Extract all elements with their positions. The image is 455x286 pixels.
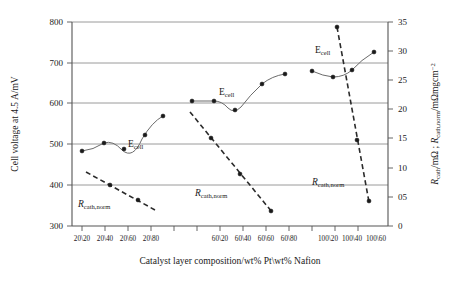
y-axis-left-title: Cell voltage at 4.5 A/mV: [10, 76, 20, 171]
annotation-rcath-middle: Rcath,norm: [194, 188, 228, 199]
xtick-2: 20\60: [120, 235, 137, 243]
ytick-800: 800: [50, 17, 64, 27]
xtick-10: 100\60: [366, 235, 386, 243]
svg-text:Ecell: Ecell: [219, 87, 234, 98]
y2-title-unit2-sup: −2: [429, 63, 436, 70]
y-axis-left-ticks: 800 700 600 500 400 300: [50, 17, 73, 231]
y-axis-right-ticks: 35 30 25 20 15 10 05 0: [388, 17, 408, 231]
annotation-ecell-right: Ecell: [315, 45, 330, 56]
xtick-6: 60\60: [258, 235, 275, 243]
ytick-600: 600: [50, 98, 64, 108]
data-point: [331, 75, 335, 79]
svg-text:Rcath,norm: Rcath,norm: [77, 199, 111, 210]
data-point: [269, 209, 273, 213]
y2tick-15: 15: [398, 133, 408, 143]
y2-title-r2-sub: cath,norm: [434, 110, 441, 137]
axes: [72, 22, 388, 226]
chart-svg: 800 700 600 500 400 300 35 30 25 20 15 1…: [0, 0, 455, 286]
series-ecell-group-20: [80, 114, 165, 153]
annotation-subscript: cath,norm: [318, 181, 345, 188]
annotation-subscript: cell: [225, 91, 235, 98]
xtick-4: 60\20: [212, 235, 229, 243]
y2-title-unit1: /mΩ ;: [430, 143, 440, 167]
data-point: [233, 108, 237, 112]
ytick-500: 500: [50, 139, 64, 149]
data-point: [122, 147, 126, 151]
annotation-subscript: cath,norm: [84, 203, 111, 210]
data-point: [80, 149, 84, 153]
xtick-5: 60\40: [235, 235, 252, 243]
ytick-700: 700: [50, 58, 64, 68]
data-point: [310, 69, 314, 73]
data-point: [212, 99, 216, 103]
data-point: [372, 50, 376, 54]
y2tick-10: 10: [398, 163, 408, 173]
data-point: [108, 183, 112, 187]
annotation-subscript: cell: [134, 143, 144, 150]
annotation-subscript: cath,norm: [201, 192, 228, 199]
annotation-ecell-middle: Ecell: [219, 87, 234, 98]
series-rcath-group-100: [335, 25, 371, 203]
data-point: [143, 133, 147, 137]
ytick-300: 300: [50, 221, 64, 231]
x-axis-ticks: 20\20 20\40 20\60 20\80 60\20 60\40 60\6…: [74, 226, 387, 243]
xtick-7: 60\80: [281, 235, 298, 243]
svg-text:Ecell: Ecell: [315, 45, 330, 56]
xtick-8: 100\20: [318, 235, 338, 243]
y2tick-20: 20: [398, 104, 408, 114]
svg-text:Rcath,norm: Rcath,norm: [311, 177, 345, 188]
xtick-9: 100\40: [342, 235, 362, 243]
annotation-rcath-right: Rcath,norm: [311, 177, 345, 188]
annotation-subscript: cell: [321, 49, 331, 56]
y2-title-unit2: /mΩmgcm: [430, 70, 440, 111]
data-point: [335, 25, 339, 29]
y2tick-35: 35: [398, 17, 408, 27]
series-ecell-group-60: [190, 72, 287, 112]
data-point: [209, 136, 213, 140]
annotation-rcath-left: Rcath,norm: [77, 199, 111, 210]
y2-title-r1-sub: cath: [434, 167, 441, 179]
y2tick-30: 30: [398, 46, 408, 56]
svg-text:Rcath,norm: Rcath,norm: [194, 188, 228, 199]
y-axis-right-title: Rcath/mΩ ; Rcath,norm/mΩmgcm−2: [429, 63, 441, 186]
y2tick-05: 05: [398, 192, 408, 202]
data-point: [367, 199, 371, 203]
data-point: [260, 82, 264, 86]
xtick-3: 20\80: [143, 235, 160, 243]
y2tick-25: 25: [398, 75, 408, 85]
xtick-1: 20\40: [97, 235, 114, 243]
y2tick-0: 0: [398, 221, 403, 231]
data-point: [190, 99, 194, 103]
xtick-0: 20\20: [74, 235, 91, 243]
data-point: [283, 72, 287, 76]
data-point: [238, 172, 242, 176]
data-point: [161, 114, 165, 118]
data-point: [136, 198, 140, 202]
chart-figure: 800 700 600 500 400 300 35 30 25 20 15 1…: [0, 0, 455, 286]
data-point: [355, 138, 359, 142]
ytick-400: 400: [50, 180, 64, 190]
data-point: [350, 68, 354, 72]
data-point: [102, 141, 106, 145]
x-axis-title: Catalyst layer composition/wt% Pt\wt% Na…: [139, 256, 320, 266]
